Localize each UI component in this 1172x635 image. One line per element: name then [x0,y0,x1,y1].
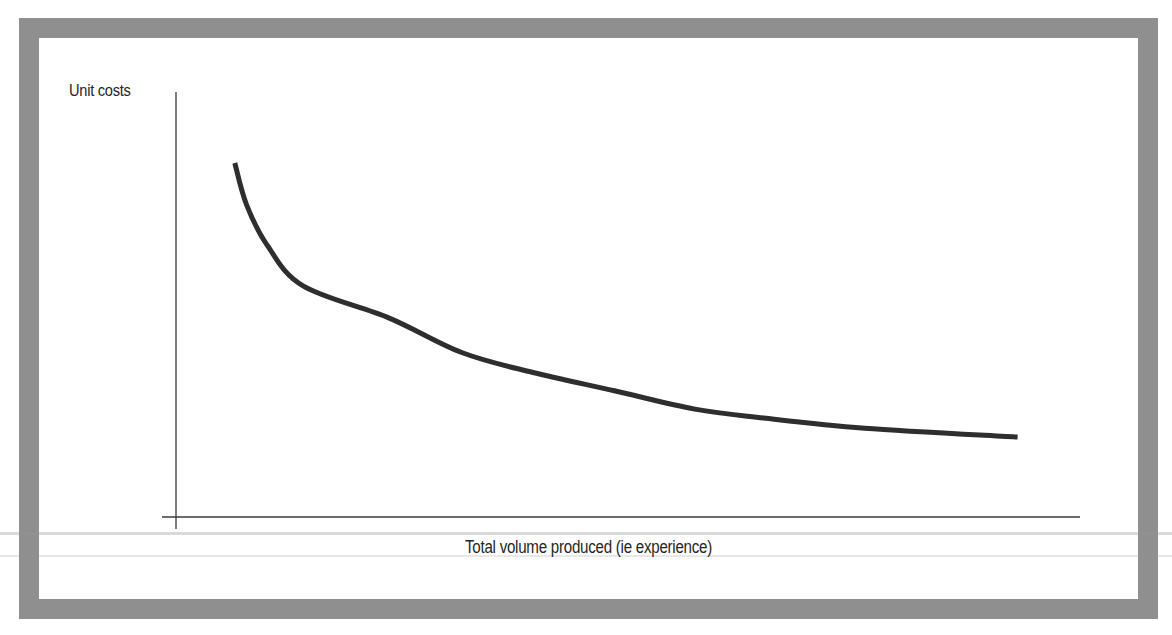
unit-cost-curve [235,163,1018,437]
y-axis-label: Unit costs [69,81,131,101]
x-axis-label: Total volume produced (ie experience) [465,537,712,558]
